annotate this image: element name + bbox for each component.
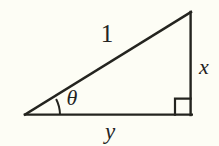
hypotenuse-label: 1 [101, 20, 114, 47]
horizontal-leg-label: y [103, 119, 116, 144]
right-triangle-diagram: 1 x y θ [0, 0, 219, 146]
geometry-figure-canvas: 1 x y θ [0, 0, 219, 146]
vertical-leg-label: x [198, 54, 209, 79]
angle-theta-label: θ [67, 85, 78, 110]
